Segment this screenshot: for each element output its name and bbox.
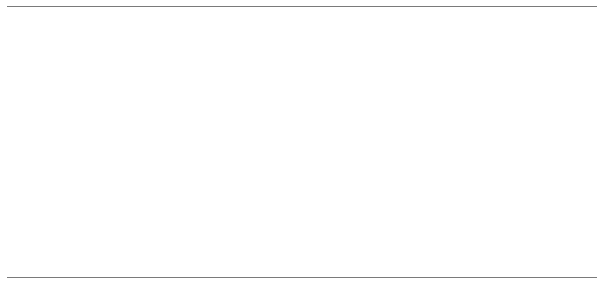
auto-sales-chart-figure	[0, 0, 604, 287]
chart-plot-area	[0, 0, 604, 287]
